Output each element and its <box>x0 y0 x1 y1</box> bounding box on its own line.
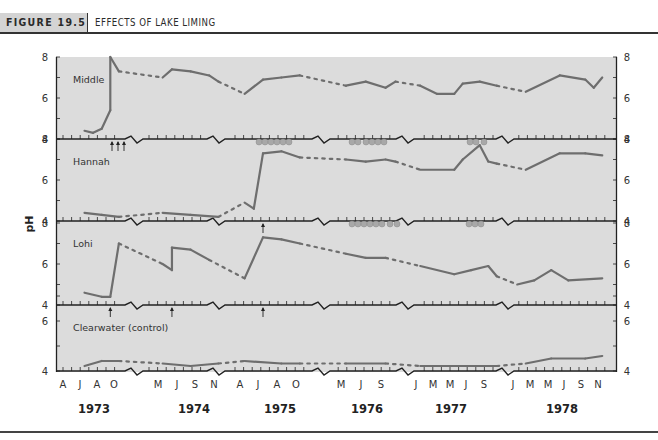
y-tick-label-right: 4 <box>624 300 630 311</box>
month-label: J <box>562 379 566 390</box>
ice-cover-marker-icon <box>256 139 262 145</box>
ice-cover-marker-icon <box>381 139 387 145</box>
ice-cover-marker-icon <box>274 139 280 145</box>
ice-cover-marker-icon <box>268 139 274 145</box>
ice-cover-marker-icon <box>481 139 487 145</box>
ice-cover-marker-icon <box>387 221 393 227</box>
month-label: M <box>446 379 455 390</box>
month-label: O <box>292 379 300 390</box>
y-tick-label-left: 4 <box>42 300 48 311</box>
month-label: S <box>192 379 198 390</box>
y-tick-label-left: 6 <box>42 316 48 327</box>
month-label: J <box>464 379 468 390</box>
ice-cover-marker-icon <box>363 139 369 145</box>
ice-cover-marker-icon <box>472 221 478 227</box>
ice-cover-marker-icon <box>280 139 286 145</box>
ice-cover-marker-icon <box>467 139 473 145</box>
month-label: J <box>511 379 515 390</box>
month-label: M <box>544 379 553 390</box>
month-label: J <box>175 379 179 390</box>
y-tick-label-right: 8 <box>624 134 630 145</box>
year-label: 1973 <box>78 402 110 416</box>
y-tick-label-left: 8 <box>42 218 48 229</box>
month-label: J <box>359 379 363 390</box>
year-label: 1978 <box>546 402 578 416</box>
bottom-rule <box>0 431 658 433</box>
y-tick-label-right: 4 <box>624 366 630 377</box>
y-tick-label-right: 6 <box>624 259 630 270</box>
ice-cover-marker-icon <box>478 221 484 227</box>
ice-cover-marker-icon <box>373 221 379 227</box>
y-tick-label-right: 8 <box>624 218 630 229</box>
month-labels: AJAOMJSNAJAOMJSJMMJSJMMJSN <box>60 379 602 390</box>
ice-cover-marker-icon <box>369 139 375 145</box>
panel-label: Hannah <box>73 156 110 167</box>
y-tick-label-right: 6 <box>624 175 630 186</box>
y-tick-label-right: 6 <box>624 93 630 104</box>
month-label: O <box>110 379 118 390</box>
ice-cover-marker-icon <box>361 221 367 227</box>
month-label: A <box>94 379 101 390</box>
y-tick-label-right: 8 <box>624 52 630 63</box>
year-label: 1975 <box>264 402 296 416</box>
y-tick-label-left: 6 <box>42 175 48 186</box>
year-label: 1976 <box>351 402 383 416</box>
month-label: S <box>578 379 584 390</box>
month-label: S <box>378 379 384 390</box>
month-label: M <box>154 379 163 390</box>
panel-label: Lohi <box>73 238 93 249</box>
year-labels: 197319741975197619771978 <box>78 402 578 416</box>
month-label: M <box>337 379 346 390</box>
month-label: A <box>274 379 281 390</box>
month-label: J <box>256 379 260 390</box>
month-label: J <box>414 379 418 390</box>
panel-label: Clearwater (control) <box>73 322 168 333</box>
ice-cover-marker-icon <box>379 221 385 227</box>
ice-cover-marker-icon <box>473 139 479 145</box>
y-tick-label-left: 6 <box>42 259 48 270</box>
y-tick-label-left: 4 <box>42 366 48 377</box>
ice-cover-marker-icon <box>466 221 472 227</box>
month-label: J <box>78 379 82 390</box>
ice-cover-marker-icon <box>349 221 355 227</box>
month-label: M <box>429 379 438 390</box>
lake-liming-chart: pH 446688Middle446688Hannah446688Lohi446… <box>0 0 658 440</box>
ice-cover-marker-icon <box>394 221 400 227</box>
month-label: N <box>594 379 601 390</box>
y-axis-label: pH <box>23 215 36 232</box>
ice-cover-marker-icon <box>286 139 292 145</box>
month-label: A <box>237 379 244 390</box>
ice-cover-marker-icon <box>355 221 361 227</box>
y-tick-label-right: 6 <box>624 316 630 327</box>
month-label: A <box>60 379 67 390</box>
month-label: N <box>210 379 217 390</box>
ice-cover-marker-icon <box>262 139 268 145</box>
panel-label: Middle <box>73 74 105 85</box>
ice-cover-marker-icon <box>355 139 361 145</box>
ice-cover-marker-icon <box>375 139 381 145</box>
y-tick-label-left: 8 <box>42 52 48 63</box>
ice-cover-marker-icon <box>367 221 373 227</box>
month-label: M <box>526 379 535 390</box>
ice-cover-marker-icon <box>349 139 355 145</box>
month-label: S <box>481 379 487 390</box>
y-tick-label-left: 6 <box>42 93 48 104</box>
y-tick-label-left: 8 <box>42 134 48 145</box>
year-label: 1974 <box>178 402 210 416</box>
year-label: 1977 <box>435 402 467 416</box>
